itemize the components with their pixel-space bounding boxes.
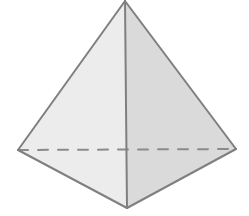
pyramid-diagram: [0, 0, 249, 216]
left-face: [18, 1, 127, 208]
pyramid-svg: [0, 0, 249, 216]
right-face: [125, 1, 236, 208]
